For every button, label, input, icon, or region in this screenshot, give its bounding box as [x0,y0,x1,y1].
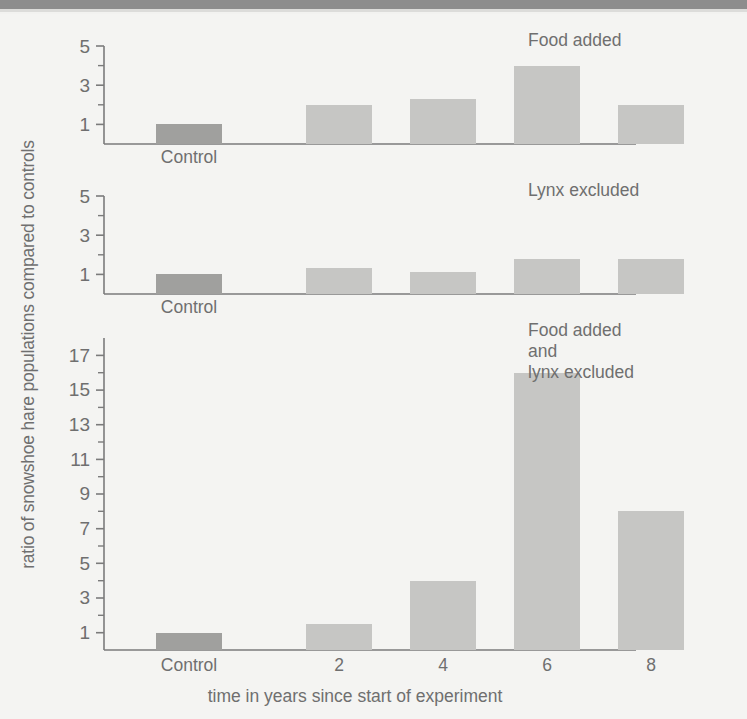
scan-artifact-light-strip [0,9,747,12]
bar-panel3-6 [514,373,580,650]
y-axis-label: ratio of snowshoe hare populations compa… [18,35,39,675]
bar-panel2-control [156,274,222,294]
x-axis-label: time in years since start of experiment [120,686,590,707]
panel-3-title: Food added and lynx excluded [528,320,648,383]
panel-3-ytick-7: 7 [56,519,90,538]
panel-2-ytick-1: 1 [56,265,90,284]
panel-3-category-8: 8 [621,655,681,676]
panel-3-ytick-13: 13 [56,415,90,434]
panel-1-category-control: Control [141,147,237,168]
panel-food-added-and-lynx-excluded: 17 15 13 11 9 7 5 3 1 Food added and lyn… [88,324,648,664]
bar-panel3-8 [618,511,684,650]
bar-panel2-8 [618,259,684,294]
panel-1-title: Food added [528,30,621,51]
bar-panel3-4 [410,581,476,650]
panel-3-ytick-9: 9 [56,484,90,503]
bar-panel2-4 [410,272,476,294]
bar-panel1-control [156,124,222,144]
panel-3-ytick-1: 1 [56,623,90,642]
panel-3-category-4: 4 [413,655,473,676]
bar-panel2-2 [306,268,372,295]
panel-1-ytick-1: 1 [56,115,90,134]
bar-panel1-6 [514,66,580,144]
panel-lynx-excluded: 5 3 1 Lynx excluded Control [88,178,648,298]
panel-food-added: 5 3 1 Food added Control [88,28,648,148]
panel-3-ytick-11: 11 [56,450,90,469]
panel-2-category-control: Control [141,297,237,318]
bar-panel1-2 [306,105,372,144]
panel-3-ytick-5: 5 [56,554,90,573]
panel-1-ytick-3: 3 [56,76,90,95]
bar-panel1-8 [618,105,684,144]
bar-panel1-4 [410,99,476,144]
panel-3-ytick-17: 17 [56,346,90,365]
scan-artifact-top-strip [0,0,747,9]
bar-panel3-2 [306,624,372,650]
panel-3-ytick-15: 15 [56,380,90,399]
panel-3-ytick-3: 3 [56,588,90,607]
bar-panel3-control [156,633,222,650]
panel-3-category-control: Control [141,655,237,676]
panel-2-title: Lynx excluded [528,180,639,201]
panel-1-ytick-5: 5 [56,37,90,56]
bar-panel2-6 [514,259,580,294]
figure-canvas: ratio of snowshoe hare populations compa… [0,14,747,719]
panel-3-category-6: 6 [517,655,577,676]
panel-2-ytick-5: 5 [56,187,90,206]
panel-2-ytick-3: 3 [56,226,90,245]
panel-3-category-2: 2 [309,655,369,676]
